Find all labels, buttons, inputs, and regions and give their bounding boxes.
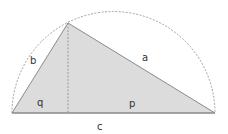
diagram-canvas: b a q p c — [0, 0, 228, 134]
label-c: c — [97, 121, 103, 132]
label-p: p — [129, 98, 135, 109]
label-b: b — [30, 55, 36, 66]
label-q: q — [37, 97, 43, 108]
label-a: a — [142, 52, 148, 63]
